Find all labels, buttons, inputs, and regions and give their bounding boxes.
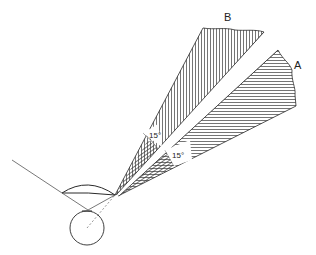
optics-diagram: 15° 15° B A xyxy=(0,0,316,255)
angle-label-a: 15° xyxy=(172,151,184,160)
diagram-canvas: 15° 15° B A xyxy=(0,0,316,255)
angle-label-b: 15° xyxy=(149,131,161,140)
ray-to-eye-right xyxy=(88,195,115,210)
incident-ray xyxy=(12,160,62,193)
wedge-label-b: B xyxy=(224,11,231,23)
lens xyxy=(62,185,115,195)
ray-to-eye-left xyxy=(62,193,88,210)
wedge-label-a: A xyxy=(294,59,302,71)
